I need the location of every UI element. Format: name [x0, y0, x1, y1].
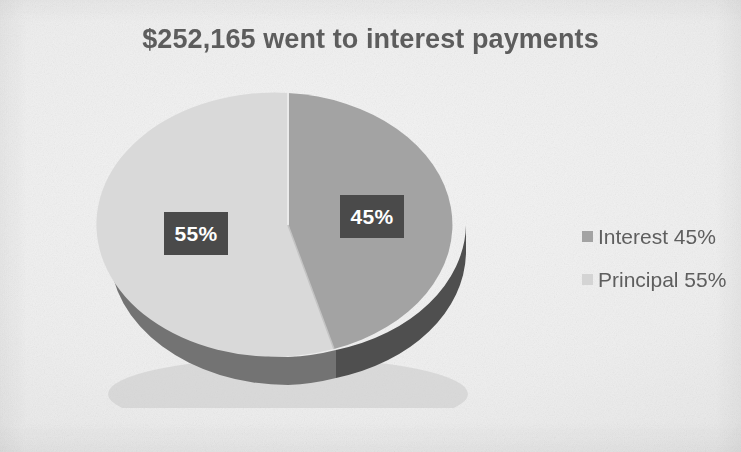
data-label-principal: 55%: [164, 212, 228, 255]
pie-chart: [86, 78, 486, 408]
slide-canvas: $252,165 went to interest payments: [0, 0, 741, 452]
legend-item-principal[interactable]: Principal 55%: [582, 264, 726, 295]
legend-swatch-icon-interest: [582, 231, 593, 242]
legend-item-interest[interactable]: Interest 45%: [582, 221, 726, 252]
legend-label-interest: Interest 45%: [598, 226, 716, 247]
chart-legend: Interest 45% Principal 55%: [582, 221, 726, 307]
page-title: $252,165 went to interest payments: [0, 24, 741, 55]
legend-label-principal: Principal 55%: [598, 269, 726, 290]
legend-swatch-icon-principal: [582, 274, 593, 285]
pie-chart-svg: [86, 78, 486, 408]
data-label-interest: 45%: [340, 195, 404, 238]
